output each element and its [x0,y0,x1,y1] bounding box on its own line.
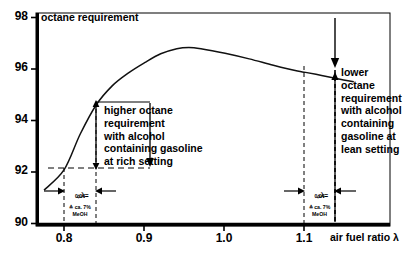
y-tick-label-94: 94 [2,113,28,126]
lean-delta-equiv-1: ≙ ca. 7% [304,204,335,211]
x-tick-label-0-8: 0.8 [44,232,84,245]
lean-delta-equiv-2: MeOH [304,211,335,218]
x-tick-label-1-1: 1.1 [284,232,324,245]
rich-setting-annotation: higher octane requirement with alcohol c… [104,104,203,168]
chart-figure: 98 96 94 92 90 0.8 0.9 1.0 1.1 octane re… [0,0,414,253]
lean-delta-value: 0,04 [304,193,335,200]
y-tick-label-92: 92 [2,164,28,177]
rich-delta-equiv-1: ≙ ca. 7% [64,204,96,211]
y-tick-label-98: 98 [2,10,28,23]
x-tick-label-0-9: 0.9 [124,232,164,245]
y-tick-label-96: 96 [2,61,28,74]
rich-delta-equiv-2: MeOH [64,211,96,218]
rich-delta-value: 0,04 [64,193,96,200]
y-tick-label-90: 90 [2,216,28,229]
x-axis-label: air fuel ratio λ [330,232,399,243]
x-tick-label-1-0: 1.0 [204,232,244,245]
chart-title: octane requirement [41,12,138,23]
x-tick-marks [64,226,304,231]
lean-setting-annotation: lower octane requirement with alcohol co… [341,66,402,156]
